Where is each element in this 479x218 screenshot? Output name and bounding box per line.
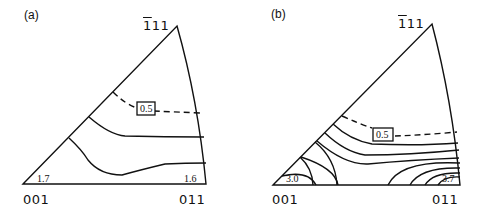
panel-b-contour-1 [333, 124, 458, 145]
panel-b-left-value: 3.0 [286, 173, 299, 184]
panel-a-triangle [23, 26, 206, 184]
panel-a-contour-1 [89, 117, 204, 137]
panel-a-left-value: 1.7 [37, 173, 50, 184]
panel-a-right-value: 1.6 [184, 173, 197, 184]
panel-b-contour-4 [301, 157, 338, 185]
panel-b-contour-dashed [342, 116, 457, 136]
inverse-pole-figures: 0.5 0.5 1.7 1.6 3.0 3.7 [0, 0, 479, 218]
panel-b-triangle [273, 24, 460, 185]
panel-b-contour-label: 0.5 [376, 129, 389, 140]
panel-a-contour-dashed [113, 92, 201, 113]
panel-a-contour-2 [69, 138, 206, 175]
panel-a-contour-label: 0.5 [140, 103, 153, 114]
panel-b-right-value: 3.7 [442, 173, 455, 184]
